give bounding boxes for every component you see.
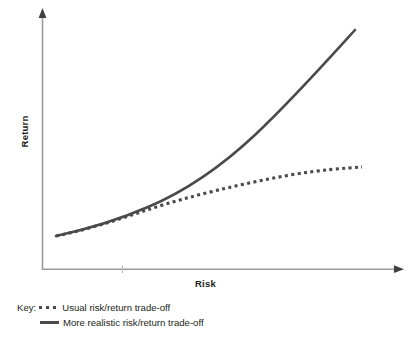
chart-legend: Key: Usual risk/return trade-off More re… (17, 300, 397, 330)
legend-key-prefix: Key: (17, 301, 36, 315)
y-axis-label: Return (19, 102, 30, 162)
x-axis-arrowhead (394, 265, 404, 273)
y-axis-arrowhead (39, 8, 47, 18)
dotted-line-swatch-icon (39, 306, 58, 309)
risk-return-chart-figure: Return Risk Key: Usual risk/return trade… (0, 0, 411, 339)
x-axis-label: Risk (0, 278, 411, 289)
chart-plot-area (0, 0, 411, 290)
legend-row-realistic: More realistic risk/return trade-off (17, 315, 397, 330)
series-usual-tradeoff-dotted (56, 167, 362, 236)
solid-line-swatch-icon (40, 321, 59, 324)
legend-label-realistic: More realistic risk/return trade-off (63, 316, 204, 330)
legend-label-usual: Usual risk/return trade-off (62, 301, 170, 315)
legend-row-usual: Key: Usual risk/return trade-off (17, 300, 397, 315)
series-realistic-tradeoff-solid (56, 30, 355, 236)
